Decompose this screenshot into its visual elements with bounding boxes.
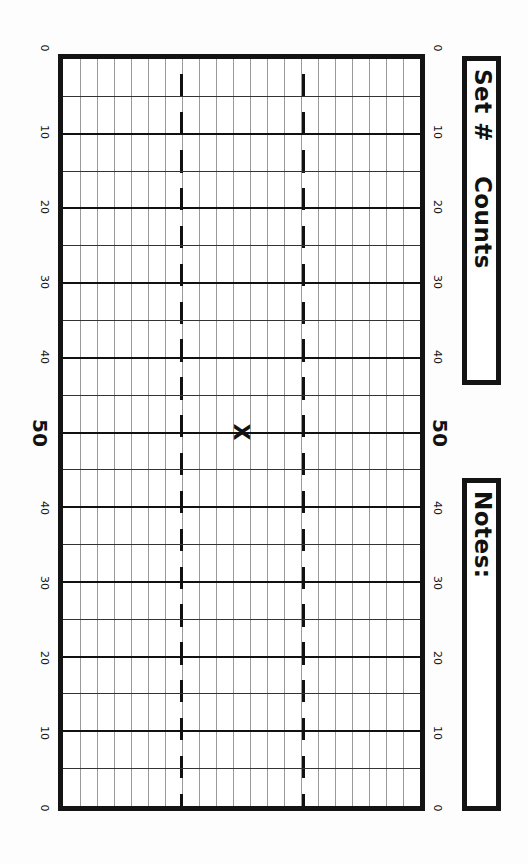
yard-line-5 bbox=[63, 619, 420, 620]
yard-line-5 bbox=[63, 544, 420, 545]
yard-label-left: 20 bbox=[38, 200, 51, 214]
yard-line-10 bbox=[63, 282, 420, 284]
yard-line-10 bbox=[63, 581, 420, 583]
yard-label-right: 10 bbox=[431, 726, 444, 740]
yard-line-10 bbox=[63, 357, 420, 359]
yard-line-5 bbox=[63, 469, 420, 470]
notes-label: Notes: bbox=[470, 491, 496, 579]
yard-label-right: 40 bbox=[431, 350, 444, 364]
yard-label-left: 0 bbox=[38, 805, 51, 812]
yard-line-5 bbox=[63, 171, 420, 172]
yard-line-5 bbox=[63, 768, 420, 769]
set-counts-box: Set #Counts bbox=[462, 56, 501, 385]
yard-line-5 bbox=[63, 245, 420, 246]
yard-line-10 bbox=[63, 730, 420, 732]
yard-label-left: 30 bbox=[38, 576, 51, 590]
yard-label-right: 20 bbox=[431, 651, 444, 665]
notes-box: Notes: bbox=[462, 478, 501, 811]
yard-label-right: 40 bbox=[431, 501, 444, 515]
yard-label-right: 0 bbox=[431, 805, 444, 812]
yard-label-right: 0 bbox=[431, 45, 444, 52]
yard-label-left: 20 bbox=[38, 651, 51, 665]
yard-label-left: 50 bbox=[28, 419, 52, 447]
yard-line-5 bbox=[63, 96, 420, 97]
yard-label-right: 10 bbox=[431, 125, 444, 139]
yard-label-left: 10 bbox=[38, 125, 51, 139]
set-counts-heading: Set #Counts bbox=[470, 69, 496, 269]
yard-label-left: 40 bbox=[38, 501, 51, 515]
yard-label-right: 50 bbox=[428, 419, 452, 447]
yard-label-right: 30 bbox=[431, 275, 444, 289]
yard-line-10 bbox=[63, 207, 420, 209]
yard-line-10 bbox=[63, 506, 420, 508]
yard-line-5 bbox=[63, 693, 420, 694]
yard-line-10 bbox=[63, 656, 420, 658]
yard-label-left: 30 bbox=[38, 275, 51, 289]
yard-line-10 bbox=[63, 133, 420, 135]
center-x-marker: X bbox=[230, 424, 252, 441]
yard-line-5 bbox=[63, 395, 420, 396]
yard-label-right: 20 bbox=[431, 200, 444, 214]
set-number-label: Set # bbox=[470, 69, 496, 142]
yard-line-5 bbox=[63, 320, 420, 321]
yard-label-left: 0 bbox=[38, 45, 51, 52]
yard-label-right: 30 bbox=[431, 576, 444, 590]
yard-label-left: 10 bbox=[38, 726, 51, 740]
counts-label: Counts bbox=[470, 176, 496, 269]
yard-label-left: 40 bbox=[38, 350, 51, 364]
